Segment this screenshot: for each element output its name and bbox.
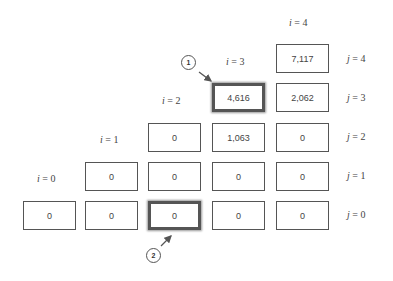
callout-arrows <box>0 0 393 281</box>
callout-2-arrow <box>161 236 171 246</box>
callout-2-badge: 2 <box>146 248 161 263</box>
callout-1-badge: 1 <box>181 55 196 70</box>
callout-1-arrow <box>199 72 211 81</box>
